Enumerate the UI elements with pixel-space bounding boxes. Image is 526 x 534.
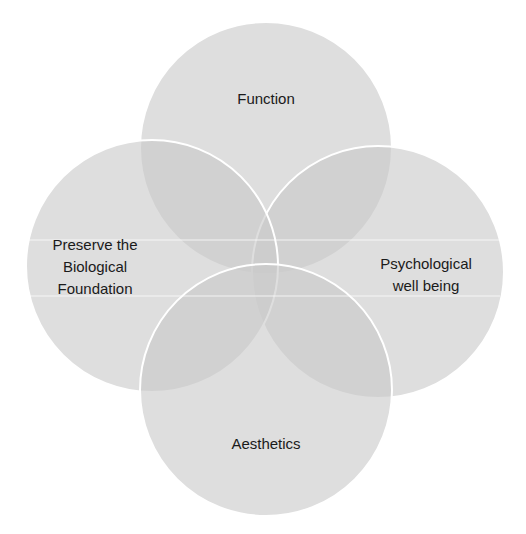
label-biological: Preserve the Biological Foundation (30, 234, 160, 300)
circle-aesthetics (140, 264, 392, 516)
label-aesthetics: Aesthetics (216, 433, 316, 455)
label-psychological: Psychological well being (366, 253, 486, 297)
label-function: Function (216, 88, 316, 110)
